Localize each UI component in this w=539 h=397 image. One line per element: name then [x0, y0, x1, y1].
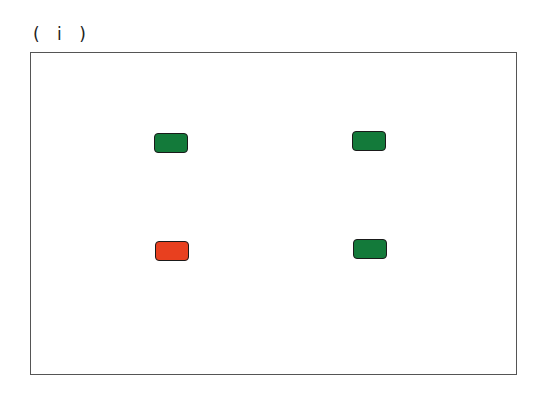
indicator-top-right [352, 131, 386, 151]
indicator-top-left [154, 133, 188, 153]
panel-label: ( i ) [33, 24, 92, 44]
indicator-bottom-left [155, 241, 189, 261]
panel-frame [30, 52, 517, 375]
indicator-bottom-right [353, 239, 387, 259]
